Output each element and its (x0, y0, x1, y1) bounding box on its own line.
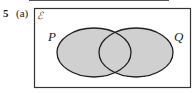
venn-diagram: ℰ P Q (0, 0, 192, 93)
set-p-label: P (47, 29, 56, 44)
universal-set-symbol: ℰ (37, 10, 44, 21)
set-q-label: Q (174, 29, 184, 44)
